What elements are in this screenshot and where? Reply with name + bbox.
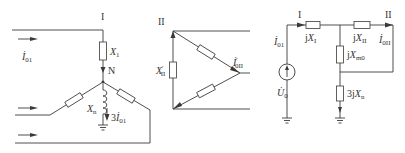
label-i0ii-prime: İ′0II	[232, 56, 244, 70]
current-arrow-c-icon	[30, 133, 38, 137]
wye-node-label: I	[101, 11, 104, 22]
eq-node-ii-label: II	[385, 9, 392, 20]
label-3jxn: 3jXn	[347, 88, 365, 101]
resistor-xii-prime	[170, 62, 177, 78]
delta-arrow-left-icon	[173, 102, 182, 109]
current-arrow-b-icon	[30, 106, 38, 110]
label-xn: Xn	[86, 103, 97, 116]
inductor-xn	[103, 84, 107, 125]
label-i01: İ01	[21, 51, 33, 64]
eq-node-i-label: I	[298, 9, 301, 20]
equivalent-circuit: I II İ01 jXI jXII İ0II jXm0 3jXn U̇0	[273, 9, 393, 123]
label-3i01: 3İ01	[111, 112, 127, 125]
eq-current-in-arrow-icon	[297, 23, 305, 28]
eq-shunt-arrow-icon	[338, 107, 342, 113]
resistor-jxii	[354, 22, 370, 29]
delta-winding: II X′II İ′0II	[155, 16, 250, 109]
resistor-delta-lower	[197, 84, 216, 98]
label-u0: U̇0	[277, 87, 288, 100]
resistor-x1	[100, 42, 107, 60]
neutral-arrow-icon	[101, 67, 106, 73]
label-jx1: jXI	[304, 32, 317, 45]
ground-icon-source	[282, 118, 292, 123]
ground-icon-shunt	[335, 118, 345, 123]
resistor-jxm0	[337, 46, 344, 63]
eq-current-out-arrow-icon	[385, 23, 393, 28]
circuit-diagram: I X1 N İ01 Xn 3İ01 II X′II İ′0II	[0, 0, 405, 153]
current-arrow-a-icon	[30, 37, 38, 41]
resistor-wye-right	[117, 89, 136, 103]
label-x1: X1	[109, 46, 120, 59]
label-jxii: jXII	[352, 32, 367, 45]
ground-icon-wye	[98, 125, 108, 130]
resistor-wye-left	[65, 93, 83, 108]
label-jxm0: jXm0	[346, 49, 365, 62]
label-eq-i0ii: İ0II	[378, 34, 391, 47]
neutral-label: N	[108, 65, 115, 76]
delta-node-label: II	[158, 16, 165, 27]
label-eq-i01: İ01	[273, 36, 285, 49]
wye-winding: I X1 N İ01 Xn 3İ01	[12, 11, 150, 143]
resistor-jx1	[306, 22, 320, 29]
label-xii-prime: X′II	[155, 64, 166, 78]
resistor-3jxn	[337, 86, 344, 101]
resistor-delta-upper	[197, 45, 215, 60]
